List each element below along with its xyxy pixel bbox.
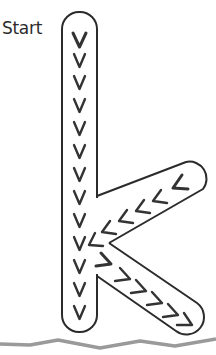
- upper-arm-arrows: [89, 175, 188, 246]
- ground-line: [0, 339, 216, 348]
- letter-k-tracing: [0, 0, 216, 355]
- upper-arm-outline: [97, 162, 207, 243]
- stem-outline: [62, 12, 97, 332]
